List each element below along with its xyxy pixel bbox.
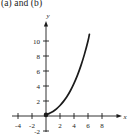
x-tick-label-2: 2: [58, 122, 62, 130]
curve-series: [46, 34, 89, 115]
y-tick-label-6: 6: [37, 68, 41, 76]
y-tick-label-4: 4: [37, 83, 41, 91]
y-tick-label-2: 2: [37, 98, 41, 106]
x-tick-label-8: 8: [100, 122, 104, 130]
x-tick-label--4: -4: [15, 122, 21, 130]
x-axis-label: x: [122, 113, 127, 121]
y-tick-label--2: -2: [34, 128, 40, 136]
y-axis-arrow-icon: [44, 21, 48, 27]
x-tick-label-4: 4: [72, 122, 76, 130]
closed-endpoint-marker: [44, 113, 49, 118]
x-axis-arrow-icon: [117, 114, 123, 118]
figure-container: (a) and (b): [0, 0, 130, 140]
coordinate-plot: -4 -2 2 4 6 8 -2 2 4 6 8 10 x y: [0, 0, 130, 140]
x-axis: [12, 114, 122, 118]
x-tick-label-6: 6: [86, 122, 90, 130]
y-axis-label: y: [45, 12, 50, 20]
y-tick-label-10: 10: [33, 38, 41, 46]
y-tick-label-8: 8: [37, 53, 41, 61]
